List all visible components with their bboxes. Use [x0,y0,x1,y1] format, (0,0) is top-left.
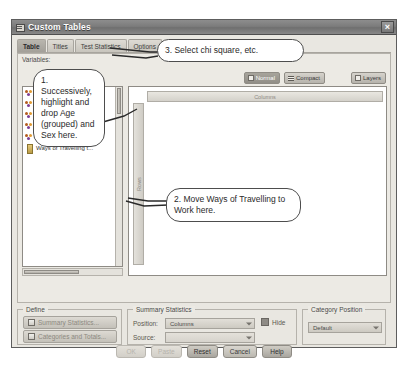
callout-1: 1. Successively, highlight and drop Age … [33,69,105,147]
callout-3: 3. Select chi square, etc. [157,39,304,62]
screenshot-root: Custom Tables × Table Titles Test Statis… [0,0,407,377]
callout-2: 2. Move Ways of Travelling to Work here. [166,188,301,222]
